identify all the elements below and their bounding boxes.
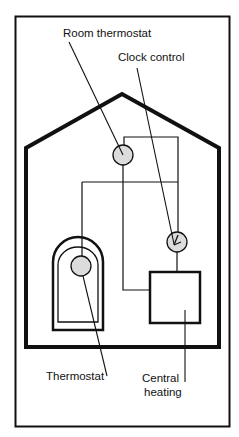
- heating-diagram: Room thermostat Clock control Thermostat…: [0, 0, 239, 437]
- label-central-heating-line1: Central: [142, 372, 179, 384]
- label-room-thermostat: Room thermostat: [63, 27, 152, 39]
- hot-water-cylinder: [53, 237, 103, 330]
- cylinder-thermostat-icon: [71, 256, 91, 276]
- label-clock-control: Clock control: [118, 51, 184, 63]
- clock-control-icon: [167, 232, 187, 252]
- label-thermostat: Thermostat: [46, 370, 105, 382]
- central-heating-box: [150, 272, 200, 323]
- label-central-heating-line2: heating: [144, 386, 182, 398]
